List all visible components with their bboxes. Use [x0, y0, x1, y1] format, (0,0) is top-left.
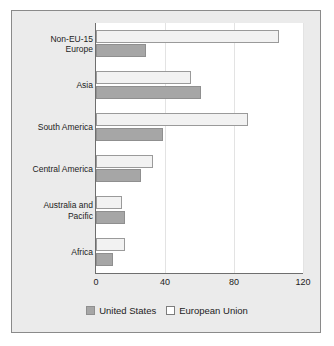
bar-united-states[interactable]	[96, 253, 113, 266]
legend-item-united-states[interactable]: United States	[86, 305, 156, 316]
bar-group: Non-EU-15Europe	[12, 23, 322, 65]
us-swatch-icon	[86, 306, 95, 315]
bar-group: Asia	[12, 65, 322, 107]
bar-european-union[interactable]	[96, 238, 125, 251]
bar-united-states[interactable]	[96, 44, 146, 57]
x-axis-line	[95, 273, 303, 274]
bar-european-union[interactable]	[96, 113, 248, 126]
bar-united-states[interactable]	[96, 169, 141, 182]
bar-group: Australia andPacific	[12, 190, 322, 232]
bar-group: South America	[12, 106, 322, 148]
legend-label-united-states: United States	[99, 305, 156, 316]
x-tick-label-40: 40	[160, 277, 170, 287]
bar-group: Central America	[12, 148, 322, 190]
category-label: Non-EU-15Europe	[0, 33, 93, 54]
eu-swatch-icon	[166, 306, 175, 315]
bar-united-states[interactable]	[96, 128, 163, 141]
bar-european-union[interactable]	[96, 30, 279, 43]
bar-united-states[interactable]	[96, 211, 125, 224]
x-tick-label-120: 120	[295, 277, 310, 287]
category-label: South America	[0, 122, 93, 133]
legend-item-european-union[interactable]: European Union	[166, 305, 248, 316]
legend-label-european-union: European Union	[179, 305, 248, 316]
bar-european-union[interactable]	[96, 196, 122, 209]
bar-european-union[interactable]	[96, 71, 191, 84]
x-tick-label-0: 0	[93, 277, 98, 287]
category-label: Central America	[0, 164, 93, 175]
x-tick-label-80: 80	[229, 277, 239, 287]
chart-legend: United States European Union	[12, 305, 322, 316]
category-label: Africa	[0, 247, 93, 258]
category-label: Australia andPacific	[0, 200, 93, 221]
category-label: Asia	[0, 80, 93, 91]
chart-figure: Non-EU-15EuropeAsiaSouth AmericaCentral …	[11, 10, 321, 333]
bar-united-states[interactable]	[96, 86, 201, 99]
bar-european-union[interactable]	[96, 155, 153, 168]
bar-group: Africa	[12, 231, 322, 273]
